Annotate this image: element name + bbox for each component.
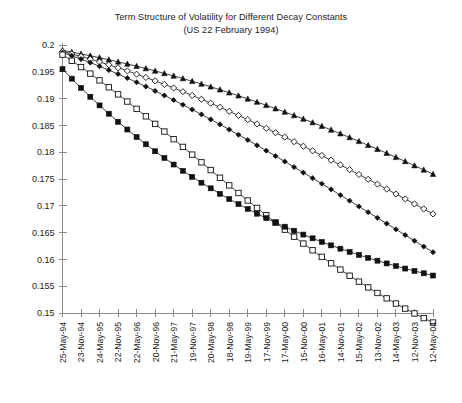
data-point-filled-square (162, 155, 167, 160)
data-point-open-square (319, 254, 324, 259)
data-point-filled-square (301, 232, 306, 237)
data-point-filled-square (208, 186, 213, 191)
data-point-filled-square (125, 127, 130, 132)
data-point-filled-square (310, 236, 315, 241)
x-tick-label: 14-May-03 (391, 322, 401, 363)
y-tick-label: 0.15 (37, 308, 55, 318)
data-point-filled-diamond (282, 159, 287, 164)
data-point-open-square (375, 290, 380, 295)
data-point-filled-square (217, 191, 222, 196)
x-tick-label: 20-May-98 (206, 322, 216, 363)
data-point-open-square (393, 301, 398, 306)
data-point-open-square (97, 78, 102, 83)
x-axis-label-group: 25-May-9423-Nov-9424-May-9522-Nov-9522-M… (58, 322, 439, 363)
x-tick-label: 21-May-97 (169, 322, 179, 363)
data-point-open-square (365, 285, 370, 290)
x-tick-label: 15-May-02 (354, 322, 364, 363)
data-point-filled-diamond (125, 75, 130, 80)
data-point-filled-diamond (180, 102, 185, 107)
data-point-open-diamond (208, 100, 214, 106)
data-point-open-square (208, 167, 213, 172)
data-point-open-square (180, 144, 185, 149)
data-point-filled-square (329, 243, 334, 248)
data-point-open-diamond (328, 157, 334, 163)
data-point-filled-diamond (208, 117, 213, 122)
data-point-open-square (301, 241, 306, 246)
data-point-open-square (356, 279, 361, 284)
data-point-filled-diamond (310, 176, 315, 181)
data-point-open-square (310, 248, 315, 253)
data-point-filled-square (412, 268, 417, 273)
data-point-filled-diamond (217, 122, 222, 127)
x-tick-label: 23-Nov-94 (76, 322, 86, 362)
data-point-filled-diamond (329, 187, 334, 192)
data-point-open-square (115, 92, 120, 97)
data-point-filled-square (245, 206, 250, 211)
y-tick-label: 0.175 (32, 174, 55, 184)
data-point-filled-diamond (384, 221, 389, 226)
data-point-filled-square (421, 271, 426, 276)
data-point-filled-square (282, 224, 287, 229)
data-point-open-diamond (291, 139, 297, 145)
series-decay-constant-4-open-square (60, 52, 436, 325)
data-point-open-square (106, 85, 111, 90)
y-tick-label: 0.165 (32, 228, 55, 238)
data-point-open-diamond (347, 167, 353, 173)
data-point-open-diamond (319, 152, 325, 158)
data-point-open-diamond (282, 134, 288, 140)
data-point-filled-diamond (97, 64, 102, 69)
data-point-filled-square (97, 103, 102, 108)
data-point-filled-diamond (301, 170, 306, 175)
data-point-open-diamond (421, 206, 427, 212)
x-tick-label: 15-Nov-00 (299, 322, 309, 362)
data-point-filled-diamond (412, 238, 417, 243)
data-point-filled-diamond (264, 148, 269, 153)
data-point-filled-triangle (338, 131, 343, 136)
data-point-filled-square (384, 261, 389, 266)
x-tick-label: 19-May-99 (243, 322, 253, 363)
data-point-open-square (421, 315, 426, 320)
data-point-filled-triangle (347, 135, 352, 140)
y-tick-label: 0.195 (32, 67, 55, 77)
data-point-filled-square (403, 266, 408, 271)
x-tick-label: 22-Nov-95 (113, 322, 123, 362)
data-point-filled-diamond (291, 164, 296, 169)
x-tick-label: 24-May-95 (95, 322, 105, 363)
data-point-filled-square (227, 197, 232, 202)
data-point-open-diamond (106, 62, 112, 68)
series-decay-constant-3-filled-diamond (60, 50, 436, 255)
data-point-open-square (245, 198, 250, 203)
data-point-filled-diamond (430, 250, 435, 255)
data-point-open-square (412, 311, 417, 316)
data-point-open-diamond (171, 85, 177, 91)
data-point-open-diamond (143, 74, 149, 80)
data-point-filled-square (292, 228, 297, 233)
data-point-filled-triangle (375, 146, 380, 151)
data-point-filled-square (190, 174, 195, 179)
data-point-filled-triangle (356, 138, 361, 143)
data-point-open-square (189, 152, 194, 157)
data-point-filled-square (143, 142, 148, 147)
data-point-filled-diamond (171, 97, 176, 102)
data-point-open-square (227, 183, 232, 188)
data-point-filled-square (153, 149, 158, 154)
data-point-open-diamond (115, 65, 121, 71)
y-tick-label: 0.2 (42, 40, 55, 50)
volatility-term-structure-chart: Term Structure of Volatility for Differe… (0, 0, 462, 403)
data-point-filled-triangle (403, 159, 408, 164)
data-point-filled-square (180, 168, 185, 173)
data-point-filled-square (375, 258, 380, 263)
x-tick-label: 16-May-01 (317, 322, 327, 363)
data-point-open-square (143, 114, 148, 119)
data-point-filled-triangle (412, 163, 417, 168)
data-point-filled-square (431, 273, 436, 278)
x-tick-label: 20-Nov-96 (151, 322, 161, 362)
data-point-open-diamond (337, 162, 343, 168)
data-point-open-diamond (356, 171, 362, 177)
data-point-filled-triangle (310, 120, 315, 125)
data-point-filled-diamond (190, 107, 195, 112)
x-tick-label: 19-Nov-97 (188, 322, 198, 362)
data-point-open-diamond (245, 117, 251, 123)
data-point-filled-triangle (384, 150, 389, 155)
data-point-filled-triangle (393, 154, 398, 159)
